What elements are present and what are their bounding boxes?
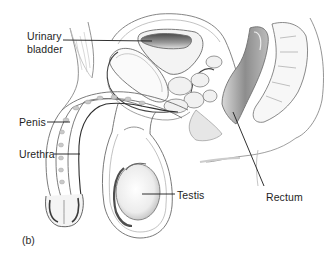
label-urethra: Urethra: [19, 148, 55, 160]
label-urinary-bladder-line2: bladder: [27, 43, 63, 56]
label-penis: Penis: [19, 116, 46, 128]
leader-rectum: [233, 112, 264, 186]
label-rectum: Rectum: [266, 191, 303, 203]
anatomy-figure: Urinary bladder Penis Urethra Testis Rec…: [0, 0, 329, 260]
label-urinary-bladder: Urinary bladder: [27, 30, 63, 56]
panel-label: (b): [22, 234, 35, 246]
glans: [46, 194, 84, 227]
label-testis: Testis: [177, 189, 204, 201]
abdominal-wall: [62, 22, 94, 110]
testis: [116, 164, 160, 220]
label-urinary-bladder-line1: Urinary: [27, 30, 63, 43]
